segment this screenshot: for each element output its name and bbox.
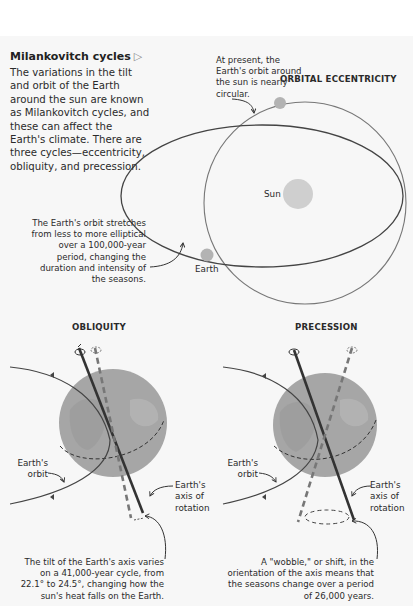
orbit-label-arrow: [259, 473, 276, 482]
intro-text: The variations in the tilt and orbit of …: [10, 66, 150, 173]
stretch-note-arrow: [150, 243, 183, 267]
section-title: Milankovitch cycles▷: [10, 50, 142, 63]
present-note-arrow: [232, 99, 254, 113]
obliquity-note-arrow: [145, 516, 166, 559]
axis-label-arrow: [150, 486, 173, 496]
earth-bottom-icon: [201, 249, 214, 262]
axis-label-arrow: [352, 486, 371, 496]
earth-label: Earth: [195, 264, 219, 275]
triangle-right-outline-icon: ▷: [134, 50, 142, 63]
obliquity-diagram: [10, 344, 173, 559]
obliquity-axis-label: Earth's axis of rotation: [175, 480, 215, 514]
obliquity-orbit-label: Earth's orbit: [10, 458, 48, 481]
wobble-ellipse: [305, 510, 349, 524]
obliquity-note: The tilt of the Earth's axis varies on a…: [20, 557, 164, 602]
precession-heading: PRECESSION: [295, 322, 358, 332]
rotation-arrow-icon: [289, 347, 357, 355]
precession-note: A "wobble," or shift, in the orientation…: [218, 557, 374, 602]
sun-icon: [283, 179, 313, 209]
elliptical-orbit: [121, 125, 403, 267]
eccentricity-diagram: [121, 97, 406, 304]
orbit-stretch-note: The Earth's orbit stretches from less to…: [30, 218, 146, 285]
precession-diagram: [223, 347, 378, 559]
sun-label: Sun: [264, 189, 281, 200]
precession-note-arrow: [352, 521, 378, 559]
obliquity-heading: OBLIQUITY: [72, 322, 126, 332]
orbit-label-arrow: [48, 473, 64, 482]
rotation-arrow-icon: [75, 344, 101, 355]
eccentricity-heading: ORBITAL ECCENTRICITY: [280, 74, 397, 84]
precession-axis-label: Earth's axis of rotation: [370, 480, 410, 514]
precession-orbit-label: Earth's orbit: [220, 458, 258, 481]
